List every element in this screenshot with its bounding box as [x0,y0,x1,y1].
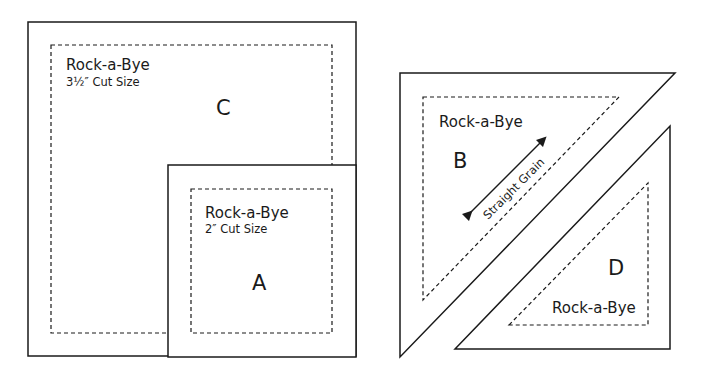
piece-c-cut-size: 3½″ Cut Size [66,75,140,89]
piece-b-letter: B [453,149,467,173]
piece-b-name: Rock-a-Bye [439,113,523,131]
straight-grain-label: Straight Grain [480,155,547,222]
piece-d-letter: D [608,256,624,280]
piece-a: Rock-a-Bye 2″ Cut Size A [168,165,356,357]
piece-a-cut-line [168,165,356,357]
piece-a-letter: A [252,271,267,295]
piece-c-letter: C [216,96,231,120]
piece-d: D Rock-a-Bye [455,126,670,349]
piece-d-name: Rock-a-Bye [552,299,636,317]
piece-a-cut-size: 2″ Cut Size [205,222,267,236]
piece-c-name: Rock-a-Bye [66,56,150,74]
template-diagram: Rock-a-Bye 3½″ Cut Size C Rock-a-Bye 2″ … [0,0,708,380]
piece-a-name: Rock-a-Bye [205,204,289,222]
